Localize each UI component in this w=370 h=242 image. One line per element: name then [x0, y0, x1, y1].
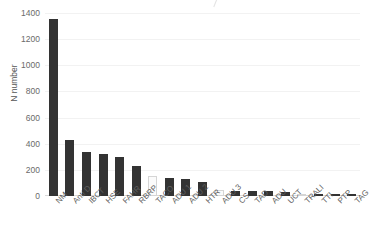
top-edge-artifact — [213, 0, 231, 12]
y-axis-tick-label: 800 — [0, 86, 40, 96]
y-axis-tick-label: 1400 — [0, 8, 40, 18]
plot-area — [45, 13, 360, 196]
y-axis-tick-label: 200 — [0, 165, 40, 175]
y-axis-tick-label: 400 — [0, 139, 40, 149]
y-axis-tick-label: 600 — [0, 113, 40, 123]
y-axis-tick-label: 1000 — [0, 60, 40, 70]
bar — [65, 140, 74, 196]
y-axis-tick-label: 1200 — [0, 34, 40, 44]
x-axis-tick-labels: NMAnti DIBCTHSEFAHRRBRPTACOADU 1ADU 2HTR… — [45, 199, 360, 242]
y-axis-tick-label: 0 — [0, 191, 40, 201]
bar-series — [45, 13, 360, 196]
y-axis-title: N number — [9, 43, 19, 123]
bar — [49, 19, 58, 196]
